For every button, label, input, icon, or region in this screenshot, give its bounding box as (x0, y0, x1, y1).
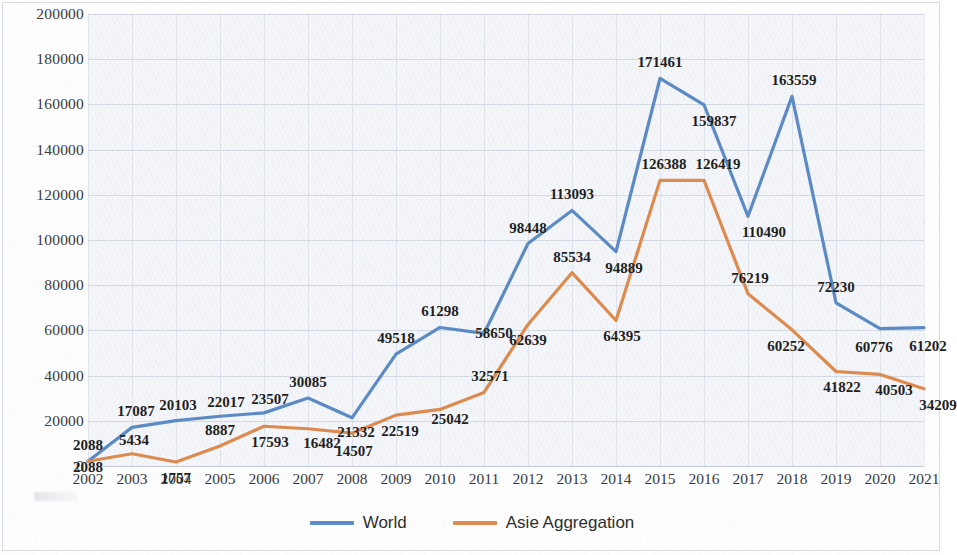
y-axis-tick-label: 120000 (0, 186, 84, 204)
legend-label-world: World (363, 513, 407, 533)
legend-item-asie-aggregation[interactable]: Asie Aggregation (453, 513, 635, 533)
x-axis-tick-label: 2012 (505, 470, 551, 488)
chart-legend: World Asie Aggregation (0, 508, 944, 538)
x-axis-tick-label: 2017 (725, 470, 771, 488)
x-axis-tick-label: 2021 (901, 470, 947, 488)
y-axis-tick-label: 100000 (0, 231, 84, 249)
x-axis-tick-label: 2003 (109, 470, 155, 488)
x-axis-tick-label: 2009 (373, 470, 419, 488)
x-axis-tick-label: 2004 (153, 470, 199, 488)
y-axis-tick-label: 20000 (0, 412, 84, 430)
x-axis: 2002200320042005200620072008200920102011… (88, 470, 924, 496)
x-axis-tick-label: 2019 (813, 470, 859, 488)
x-axis-line (88, 466, 924, 467)
plot-area (88, 14, 924, 466)
x-axis-tick-label: 2018 (769, 470, 815, 488)
x-axis-tick-label: 2015 (637, 470, 683, 488)
series-line-asie-aggregation (88, 180, 924, 462)
y-axis-tick-label: 160000 (0, 95, 84, 113)
x-axis-tick-label: 2010 (417, 470, 463, 488)
legend-label-asie-aggregation: Asie Aggregation (506, 513, 635, 533)
scan-artifact (34, 492, 78, 501)
x-axis-tick-label: 2007 (285, 470, 331, 488)
x-axis-tick-label: 2013 (549, 470, 595, 488)
x-axis-tick-label: 2016 (681, 470, 727, 488)
series-line-world (88, 78, 924, 461)
x-axis-tick-label: 2002 (65, 470, 111, 488)
x-axis-tick-label: 2005 (197, 470, 243, 488)
x-axis-tick-label: 2006 (241, 470, 287, 488)
legend-swatch-asie-aggregation (453, 521, 497, 525)
y-axis-tick-label: 180000 (0, 50, 84, 68)
y-axis-tick-label: 40000 (0, 367, 84, 385)
legend-item-world[interactable]: World (310, 513, 407, 533)
series-layer (88, 14, 924, 466)
y-axis-tick-label: 60000 (0, 321, 84, 339)
y-axis-tick-label: 140000 (0, 141, 84, 159)
x-axis-tick-label: 2008 (329, 470, 375, 488)
x-axis-tick-label: 2011 (461, 470, 507, 488)
legend-swatch-world (310, 521, 354, 525)
y-axis-tick-label: 200000 (0, 5, 84, 23)
gridline-vertical (924, 14, 925, 466)
x-axis-tick-label: 2020 (857, 470, 903, 488)
y-axis-tick-label: 80000 (0, 276, 84, 294)
x-axis-tick-label: 2014 (593, 470, 639, 488)
